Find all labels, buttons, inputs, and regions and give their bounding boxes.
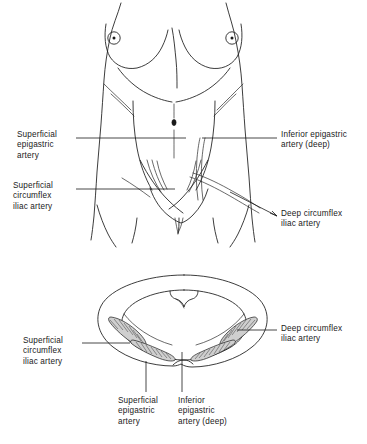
label-superficial-epigastric-artery-upper: Superficial epigastric artery <box>17 130 79 161</box>
diagram-page: Superficial epigastric artery Superficia… <box>0 0 367 444</box>
cross-section-view <box>98 275 267 367</box>
leader-deep-circumflex-iliac <box>230 192 277 216</box>
anterior-torso-view <box>91 3 260 247</box>
vessel-inferior-epigastric-right <box>191 340 236 361</box>
label-superficial-circumflex-iliac-artery-lower: Superficial circumflex iliac artery <box>23 336 83 367</box>
label-deep-circumflex-iliac-artery-lower: Deep circumflex iliac artery <box>281 324 365 345</box>
umbilicus <box>172 119 176 125</box>
label-inferior-epigastric-artery-lower: Inferior epigastric artery (deep) <box>178 396 246 427</box>
label-inferior-epigastric-artery-upper: Inferior epigastric artery (deep) <box>281 130 365 151</box>
label-superficial-circumflex-iliac-artery-upper: Superficial circumflex iliac artery <box>13 181 79 212</box>
label-superficial-epigastric-artery-lower: Superficial epigastric artery <box>118 396 176 427</box>
label-deep-circumflex-iliac-artery-upper: Deep circumflex iliac artery <box>281 209 365 230</box>
vessel-superficial-epigastric-left <box>131 340 176 361</box>
